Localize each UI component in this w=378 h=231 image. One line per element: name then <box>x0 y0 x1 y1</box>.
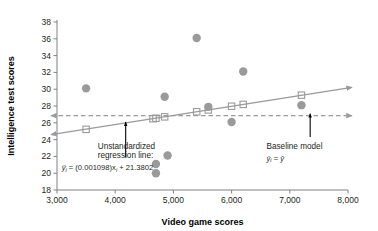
y-axis-tick-label: 34 <box>42 51 52 61</box>
scatter-plot-figure: 18202224262830323436383,0004,0005,0006,0… <box>0 0 378 231</box>
observed-data-point <box>192 34 200 42</box>
baseline-equation: ŷi = ȳ <box>266 154 286 164</box>
observed-data-point <box>239 67 247 75</box>
regression-annotation-line1: Unstandardized <box>98 142 156 151</box>
y-axis-tick-label: 26 <box>42 118 52 128</box>
observed-data-point <box>227 118 235 126</box>
regression-equation: ŷi = (0.001098)xi + 21.3802 <box>61 163 154 173</box>
y-axis-tick-label: 38 <box>42 17 52 27</box>
observed-data-point <box>297 101 305 109</box>
x-axis-tick-label: 6,000 <box>221 195 243 205</box>
y-axis-tick-label: 24 <box>42 135 52 145</box>
regression-line <box>51 87 352 134</box>
x-axis-tick-label: 3,000 <box>46 195 68 205</box>
y-axis-tick-label: 28 <box>42 101 52 111</box>
y-axis-tick-label: 20 <box>42 168 52 178</box>
y-axis-tick-label: 32 <box>42 67 52 77</box>
x-axis-tick-label: 4,000 <box>105 195 127 205</box>
y-axis-tick-label: 22 <box>42 151 52 161</box>
regression-annotation-line2: regression line: <box>98 151 154 160</box>
y-axis-tick-label: 36 <box>42 34 52 44</box>
x-axis-tick-label: 8,000 <box>337 195 359 205</box>
y-axis-tick-label: 30 <box>42 84 52 94</box>
observed-data-point <box>82 84 90 92</box>
y-axis-tick-label: 18 <box>42 185 52 195</box>
observed-data-point <box>163 151 171 159</box>
x-axis-title: Video game scores <box>162 217 244 227</box>
observed-data-point <box>204 103 212 111</box>
chart-canvas: 18202224262830323436383,0004,0005,0006,0… <box>0 0 378 231</box>
x-axis-tick-label: 7,000 <box>279 195 301 205</box>
baseline-annotation-line1: Baseline model <box>267 142 323 151</box>
observed-data-point <box>160 93 168 101</box>
y-axis-title: Intelligence test scores <box>6 56 16 156</box>
x-axis-tick-label: 5,000 <box>163 195 185 205</box>
